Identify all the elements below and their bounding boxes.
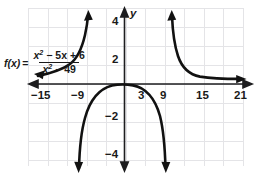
x-tick-label-3: 3 [138, 89, 144, 101]
middle-branch-arrow-down-right [161, 162, 170, 173]
numerator-rest: − 5x + 6 [43, 49, 84, 61]
y-axis-arrow-down [121, 162, 128, 171]
y-axis-arrow-up [121, 8, 128, 17]
x-axis-arrow-left [29, 80, 38, 87]
x-axis-arrow-right [243, 80, 252, 87]
y-axis-label: y [130, 7, 136, 19]
graph-figure: y −15 −9 3 9 15 21 4 2 −2 −4 f(x) = x2 −… [0, 0, 258, 174]
fraction: x2 − 5x + 6 x2 − 49 [30, 50, 87, 76]
x-tick-label-15: 15 [196, 89, 209, 101]
fraction-numerator: x2 − 5x + 6 [30, 50, 87, 62]
y-tick-label-4: 4 [112, 15, 118, 27]
function-equation-label: f(x) = x2 − 5x + 6 x2 − 49 [4, 50, 88, 76]
coordinate-plane [0, 0, 258, 174]
equals-sign: = [22, 57, 28, 69]
x-tick-label-9: 9 [160, 89, 166, 101]
x-tick-label-neg15: −15 [31, 89, 51, 101]
curve-right-branch [172, 16, 240, 79]
y-tick-label-neg2: −2 [105, 110, 118, 122]
curve-middle-branch [79, 85, 166, 168]
function-name: f(x) [4, 57, 20, 69]
y-tick-label-2: 2 [112, 53, 118, 65]
left-branch-arrow-up [84, 10, 93, 21]
denominator-rest: − 49 [52, 63, 76, 75]
right-branch-arrow-up [167, 10, 176, 21]
fraction-denominator: x2 − 49 [39, 62, 79, 75]
x-tick-label-21: 21 [234, 89, 247, 101]
x-tick-label-neg9: −9 [71, 89, 84, 101]
middle-branch-arrow-down-left [74, 162, 83, 173]
y-tick-label-neg4: −4 [105, 148, 118, 160]
